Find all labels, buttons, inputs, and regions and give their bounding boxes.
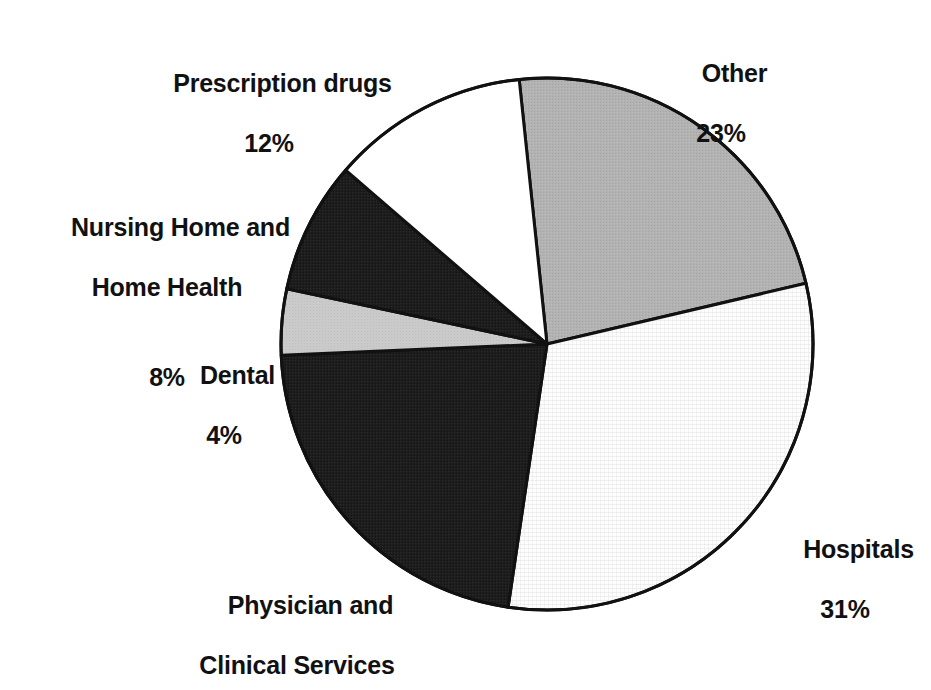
slice-label-text: Hospitals — [803, 535, 914, 563]
slice-label-text-line2: Home Health — [36, 272, 298, 302]
chart-page: Prescription drugs 12% Other 23% Nursing… — [0, 0, 931, 690]
slice-percent: 4% — [138, 420, 310, 450]
slice-label-dental: Dental 4% — [138, 330, 310, 510]
slice-label-text-line2: Clinical Services — [148, 650, 446, 680]
slice-label-text: Prescription drugs — [173, 69, 392, 97]
slice-percent: 23% — [646, 118, 796, 148]
slice-label-other: Other 23% — [646, 28, 796, 208]
slice-label-text: Dental — [200, 361, 275, 389]
slice-label-physician-and-clinical-services: Physician and Clinical Services 22% — [148, 560, 446, 690]
slice-label-text-line1: Physician and — [228, 591, 394, 619]
slice-label-hospitals: Hospitals 31% — [770, 504, 920, 684]
slice-label-text: Other — [702, 59, 768, 87]
slice-percent: 12% — [140, 128, 398, 158]
slice-label-text-line1: Nursing Home and — [71, 213, 290, 241]
slice-percent: 31% — [770, 594, 920, 624]
